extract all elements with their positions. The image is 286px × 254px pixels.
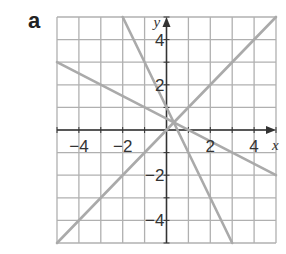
x-tick-label: 2 (206, 137, 215, 156)
y-tick-label: 4 (155, 31, 164, 50)
x-axis-arrow-icon (266, 126, 276, 134)
y-tick-label: −2 (145, 166, 164, 185)
y-tick-label: 2 (155, 76, 164, 95)
coordinate-plot: −4−22442−2−4xy (0, 0, 286, 254)
y-axis-label: y (152, 14, 161, 30)
chart-panel: a −4−22442−2−4xy (0, 0, 286, 254)
x-tick-label: 4 (249, 137, 258, 156)
x-tick-label: −2 (113, 137, 132, 156)
y-axis-arrow-icon (163, 17, 171, 27)
x-tick-label: −4 (69, 137, 88, 156)
x-axis-label: x (271, 137, 279, 153)
y-tick-label: −4 (145, 211, 164, 230)
